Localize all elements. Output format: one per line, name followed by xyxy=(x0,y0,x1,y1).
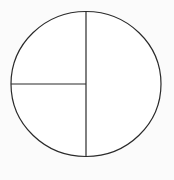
pie-chart xyxy=(0,0,174,180)
